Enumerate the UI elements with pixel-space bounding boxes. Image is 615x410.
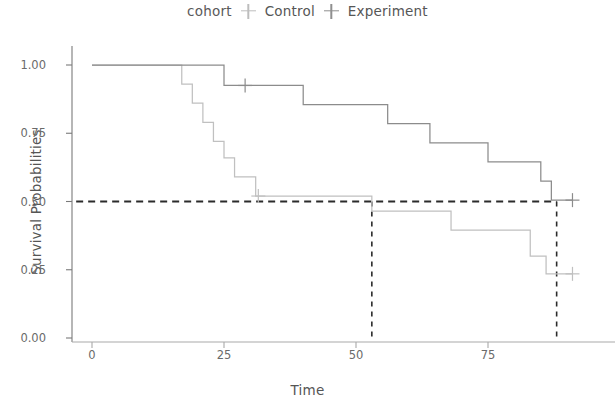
x-axis-ticks [92,342,488,348]
series-line-experiment [92,65,572,200]
plot-canvas [0,0,615,410]
median-reference-lines [76,202,556,339]
axis-lines [72,46,615,342]
censor-marks-experiment [238,78,579,207]
series-line-control [92,65,572,274]
y-axis-ticks [66,65,72,338]
survival-plot-figure: cohort Control Experiment Survival Proba… [0,0,615,410]
